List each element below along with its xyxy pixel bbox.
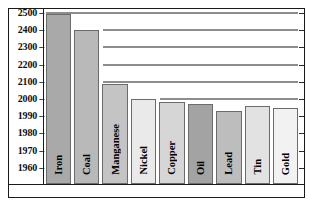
bar-gold[interactable]: Gold [273, 108, 298, 184]
plot-area: IronCoalManganeseNickelCopperOilLeadTinG… [44, 9, 304, 185]
y-tick-label: 1990 – [9, 110, 44, 122]
bar-lead[interactable]: Lead [216, 111, 241, 184]
bar-tin[interactable]: Tin [245, 106, 270, 184]
bar-label: Tin [246, 159, 269, 179]
bar-oil[interactable]: Oil [188, 104, 213, 184]
gridline [103, 64, 298, 66]
y-axis: 2500 –2400 –2300 –2200 –2100 –2000 –1990… [9, 9, 44, 185]
chart-figure: 2500 –2400 –2300 –2200 –2100 –2000 –1990… [0, 0, 314, 206]
bar-label: Oil [189, 161, 212, 179]
bar-coal[interactable]: Coal [74, 30, 99, 184]
bar-label-text: Gold [280, 153, 291, 175]
y-tick-label: 2300 – [9, 41, 44, 53]
gridline [103, 81, 298, 83]
y-tick-mark-right [299, 168, 304, 169]
bar-label-text: Lead [223, 152, 234, 175]
bar-label-text: Oil [195, 161, 206, 175]
y-tick-mark-right [299, 13, 304, 14]
y-tick-mark-right [299, 47, 304, 48]
y-tick-label: 1970 – [9, 145, 44, 157]
y-tick-label: 1960 – [9, 162, 44, 174]
y-tick-mark-right [299, 30, 304, 31]
y-tick-mark-right [299, 65, 304, 66]
y-tick-label: 2200 – [9, 59, 44, 71]
y-tick-label: 2000 – [9, 93, 44, 105]
y-tick-label: 2100 – [9, 76, 44, 88]
y-tick-mark-right [299, 82, 304, 83]
y-tick-label: 2500 – [9, 7, 44, 19]
bar-label-text: Coal [81, 154, 92, 175]
bar-label: Nickel [132, 146, 155, 179]
bar-label-text: Iron [53, 155, 64, 175]
y-tick-mark-right [299, 151, 304, 152]
bar-iron[interactable]: Iron [46, 14, 71, 184]
bar-label: Manganese [103, 124, 126, 179]
y-tick-mark-right [299, 99, 304, 100]
bar-label-text: Copper [166, 141, 177, 175]
y-tick-mark-right [299, 133, 304, 134]
gridline [160, 98, 298, 100]
y-tick-label: 2400 – [9, 24, 44, 36]
bar-label-text: Tin [252, 159, 263, 175]
y-tick-label: 1980 – [9, 127, 44, 139]
bar-label: Lead [217, 152, 240, 179]
bar-label: Coal [75, 154, 98, 179]
gridline [103, 29, 298, 31]
gridline [103, 46, 298, 48]
bar-label-text: Nickel [138, 146, 149, 175]
bar-copper[interactable]: Copper [159, 102, 184, 184]
y-tick-mark-right [299, 116, 304, 117]
bar-nickel[interactable]: Nickel [131, 99, 156, 184]
bar-label: Gold [274, 153, 297, 179]
bar-label: Iron [47, 155, 70, 179]
gridline [46, 12, 298, 14]
bar-manganese[interactable]: Manganese [102, 84, 127, 184]
bar-label: Copper [160, 141, 183, 179]
bar-label-text: Manganese [110, 124, 121, 175]
